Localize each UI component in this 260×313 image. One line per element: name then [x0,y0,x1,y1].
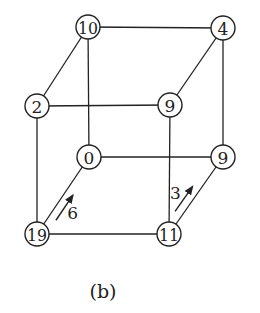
node-front-bottom-left: 19 [25,222,49,246]
arrow-weight-label: 6 [67,203,78,223]
edge-back-top-left-back-top-right [88,27,223,28]
node-back-top-right: 4 [211,16,235,40]
edge-back-top-left-front-top-left [37,27,88,106]
edge-front-top-right-front-bottom-right [169,105,170,234]
svg-text:0: 0 [84,148,95,168]
node-back-bottom-right: 9 [211,145,235,169]
nodes: 10429091911 [25,15,235,246]
svg-text:9: 9 [165,96,176,116]
edge-front-top-left-front-top-right [37,105,170,106]
edge-back-top-right-front-top-right [170,28,223,105]
svg-text:9: 9 [218,148,229,168]
edge-back-bottom-left-front-bottom-left [37,157,89,234]
node-back-top-left: 10 [76,15,100,39]
svg-text:19: 19 [27,225,47,245]
edges [37,27,223,234]
node-front-bottom-right: 11 [157,222,181,246]
svg-text:2: 2 [32,97,43,117]
arrow-weight-label: 3 [170,183,181,203]
svg-text:4: 4 [218,19,229,39]
node-front-top-left: 2 [25,94,49,118]
cube-diagram: 63 10429091911 [0,0,260,313]
svg-text:11: 11 [159,225,179,245]
node-front-top-right: 9 [158,93,182,117]
figure-caption: (b) [0,280,206,302]
svg-text:10: 10 [78,18,98,38]
weight-arrows: 63 [56,183,192,223]
edge-back-top-left-back-bottom-left [88,27,89,157]
node-back-bottom-left: 0 [77,145,101,169]
